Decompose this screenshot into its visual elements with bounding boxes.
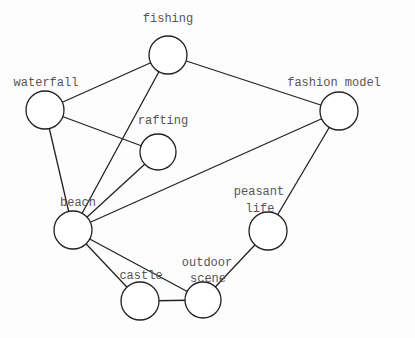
node-waterfall[interactable]: [26, 91, 64, 129]
node-outdoor-scene[interactable]: [185, 282, 221, 318]
label-outdoor-scene-line1: outdoor: [182, 256, 232, 270]
label-castle: castle: [119, 269, 162, 283]
node-peasant-life[interactable]: [249, 212, 287, 250]
label-peasant-life-line2: life: [246, 202, 275, 216]
node-castle[interactable]: [121, 282, 159, 320]
label-rafting: rafting: [138, 114, 188, 128]
node-beach[interactable]: [54, 211, 92, 249]
label-fishing: fishing: [143, 12, 193, 26]
label-fashion-model: fashion model: [287, 76, 381, 90]
label-outdoor-scene-line2: scene: [190, 272, 226, 286]
graph-diagram: fishing waterfall rafting fashion model …: [0, 0, 415, 338]
label-waterfall: waterfall: [14, 76, 79, 90]
node-fashion-model[interactable]: [320, 92, 358, 130]
edge-fashion-model-peasant-life: [268, 111, 339, 231]
node-rafting[interactable]: [140, 134, 176, 170]
label-beach: beach: [60, 196, 96, 210]
node-fishing[interactable]: [149, 36, 187, 74]
edge-fashion-model-beach: [73, 111, 339, 230]
label-peasant-life-line1: peasant: [234, 185, 284, 199]
